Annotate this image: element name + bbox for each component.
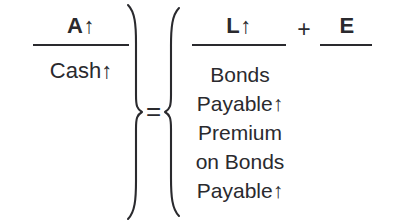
assets-divider-rule xyxy=(33,44,129,46)
equals-sign: = xyxy=(146,98,161,124)
liabilities-divider-rule xyxy=(192,44,286,46)
list-item: Bonds xyxy=(186,60,294,89)
equity-header-label: E xyxy=(322,15,372,37)
left-curly-brace-icon xyxy=(163,6,183,218)
assets-account-cash: Cash↑ xyxy=(33,60,129,82)
list-item: on Bonds xyxy=(186,147,294,176)
list-item: Payable↑ xyxy=(186,176,294,205)
right-curly-brace-icon xyxy=(124,3,144,221)
liabilities-account-list: Bonds Payable↑ Premium on Bonds Payable↑ xyxy=(186,60,294,205)
assets-header-label: A↑ xyxy=(33,15,129,37)
liabilities-header-label: L↑ xyxy=(192,15,286,37)
list-item: Premium xyxy=(186,118,294,147)
equity-divider-rule xyxy=(320,44,372,46)
plus-sign: + xyxy=(293,18,315,41)
list-item: Payable↑ xyxy=(186,89,294,118)
accounting-equation-figure: A↑ Cash↑ = L↑ Bonds Payable↑ Premium on … xyxy=(0,0,395,224)
